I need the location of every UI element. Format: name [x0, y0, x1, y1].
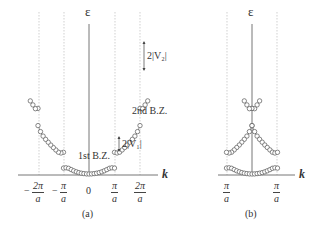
- gap-arrow-v2: [143, 41, 146, 71]
- tick-neg-pi-over-a: − π a: [60, 181, 67, 204]
- first-bz-label: 1st B.Z.: [78, 151, 110, 161]
- tick-2pi-over-a: 2π a: [134, 181, 146, 204]
- second-bz-label: 2nd B.Z.: [132, 106, 167, 116]
- panel-b-reduced-zone: [218, 12, 295, 176]
- tick-pi-over-a-b: π a: [273, 181, 280, 204]
- caption-a: (a): [82, 209, 93, 219]
- gap-arrow-v1: [118, 136, 121, 152]
- energy-axis-label-b: ε: [248, 5, 253, 18]
- tick-pi-over-a: π a: [111, 181, 118, 204]
- gap-v2-label: 2|V₂|: [147, 51, 167, 61]
- caption-b: (b): [245, 209, 257, 219]
- tick-zero: 0: [86, 186, 91, 196]
- gap-v1-label: 2|V₁|: [122, 139, 142, 149]
- k-axis-label-a: k: [162, 168, 168, 180]
- k-axis-label-b: k: [299, 168, 305, 180]
- tick-neg-pi-over-a-b: π a: [223, 181, 230, 204]
- energy-axis-label-a: ε: [85, 5, 90, 18]
- tick-neg-2pi-over-a: − 2π a: [32, 181, 44, 204]
